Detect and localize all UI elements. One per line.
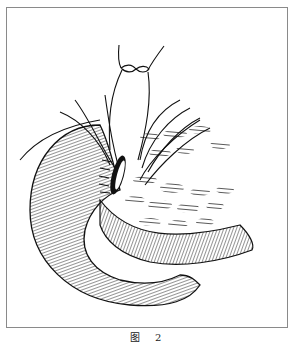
surgical-illustration xyxy=(0,0,297,344)
figure-caption: 图 2 xyxy=(0,329,297,344)
mucosa-area xyxy=(125,126,234,228)
